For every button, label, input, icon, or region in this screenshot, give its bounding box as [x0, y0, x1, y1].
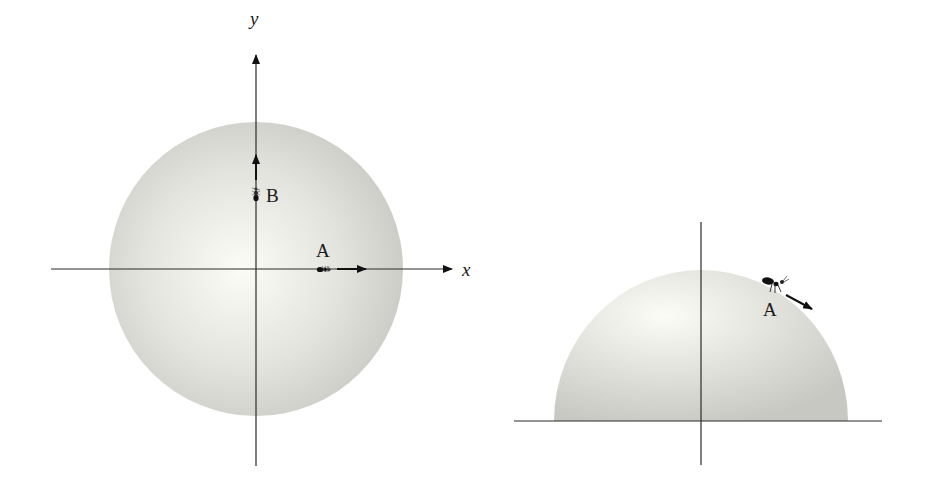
label-a-top: A	[316, 240, 330, 261]
top-view: x y A B	[51, 8, 471, 466]
x-axis-label: x	[461, 259, 471, 280]
y-axis-label: y	[248, 8, 259, 29]
label-a-side: A	[763, 299, 777, 320]
sphere-ant-diagram: x y A B	[0, 0, 929, 497]
side-view: A	[514, 222, 882, 465]
label-b-top: B	[266, 185, 279, 206]
